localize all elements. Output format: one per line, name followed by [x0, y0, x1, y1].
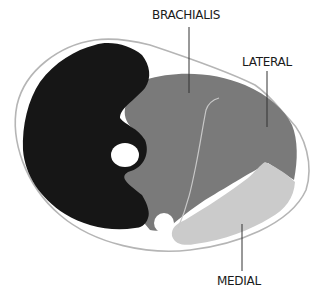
biceps-region: [23, 43, 149, 229]
diagram-graphic: [0, 0, 314, 294]
lateral-label: LATERAL: [242, 56, 292, 68]
brachialis-label: BRACHIALIS: [152, 9, 220, 21]
arm-cross-section-diagram: BRACHIALIS LATERAL MEDIAL: [0, 0, 314, 294]
vessel-notch: [154, 213, 174, 233]
medial-label: MEDIAL: [217, 275, 261, 287]
humerus-bone: [111, 143, 139, 167]
